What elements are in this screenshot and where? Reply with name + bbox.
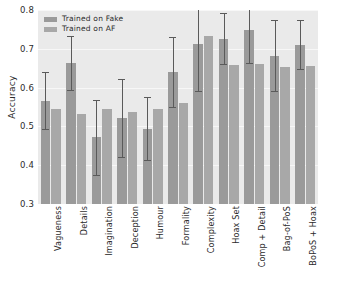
error-bar-cap [271, 91, 278, 92]
y-tick-label: 0.4 [4, 160, 34, 170]
x-tick-label: Humour [156, 206, 165, 239]
error-bar [45, 72, 46, 129]
x-axis-ticks: VaguenessDetailsImaginationDeceptionHumo… [38, 206, 318, 283]
x-tick-label: Complexity [207, 206, 216, 253]
legend-label: Trained on AF [62, 25, 116, 33]
error-bar-cap [169, 37, 176, 38]
error-bar-cap [67, 36, 74, 37]
x-tick-label: Comp + Detail [258, 206, 267, 267]
error-bar [300, 20, 301, 68]
error-bar-cap [42, 129, 49, 130]
error-bar-cap [271, 20, 278, 21]
bar [229, 65, 239, 204]
gridline [38, 10, 318, 11]
error-bar [147, 97, 148, 160]
error-bar [224, 13, 225, 64]
error-bar-cap [195, 91, 202, 92]
bar [102, 109, 112, 204]
error-bar [96, 100, 97, 175]
error-bar [249, 10, 250, 63]
error-bar-cap [297, 69, 304, 70]
error-bar-cap [118, 79, 125, 80]
y-axis-ticks: 0.30.40.50.60.70.8 [0, 10, 34, 204]
bar [306, 66, 316, 204]
y-tick-label: 0.7 [4, 44, 34, 54]
bar [51, 109, 61, 204]
x-tick-label: Hoax Set [232, 206, 241, 244]
error-bar-cap [246, 63, 253, 64]
y-tick-label: 0.8 [4, 5, 34, 15]
error-bar-cap [93, 100, 100, 101]
x-tick-label: Vagueness [54, 206, 63, 251]
error-bar-cap [67, 90, 74, 91]
legend-item: Trained on AF [44, 25, 123, 33]
legend: Trained on FakeTrained on AF [44, 15, 123, 35]
legend-swatch [44, 17, 57, 22]
error-bar-cap [297, 20, 304, 21]
error-bar-cap [169, 107, 176, 108]
bar [128, 112, 138, 204]
error-bar-cap [118, 157, 125, 158]
error-bar [122, 79, 123, 157]
plot-area [38, 10, 318, 204]
legend-item: Trained on Fake [44, 15, 123, 23]
x-tick-label: Imagination [105, 206, 114, 256]
bar [77, 114, 87, 204]
legend-label: Trained on Fake [62, 15, 123, 23]
bar [204, 36, 214, 204]
bar [280, 67, 290, 204]
error-bar [275, 20, 276, 91]
gridline [38, 49, 318, 50]
x-tick-label: Formality [182, 206, 191, 245]
error-bar-cap [144, 97, 151, 98]
error-bar-cap [144, 160, 151, 161]
bar [153, 109, 163, 204]
legend-swatch [44, 27, 57, 32]
accuracy-bar-chart-figure: 0.30.40.50.60.70.8 Accuracy Trained on F… [0, 0, 338, 283]
x-tick-label: Deception [131, 206, 140, 249]
y-tick-label: 0.3 [4, 199, 34, 209]
x-tick-label: Bag-of-PoS [283, 206, 292, 251]
x-tick-label: BoPoS + Hoax [309, 206, 318, 266]
error-bar [71, 36, 72, 90]
bar [255, 64, 265, 204]
error-bar [198, 10, 199, 91]
error-bar [173, 37, 174, 107]
bar [179, 103, 189, 204]
x-tick-label: Details [80, 206, 89, 235]
error-bar-cap [42, 72, 49, 73]
y-axis-label: Accuracy [7, 62, 17, 132]
error-bar-cap [220, 64, 227, 65]
error-bar-cap [93, 175, 100, 176]
error-bar-cap [220, 13, 227, 14]
